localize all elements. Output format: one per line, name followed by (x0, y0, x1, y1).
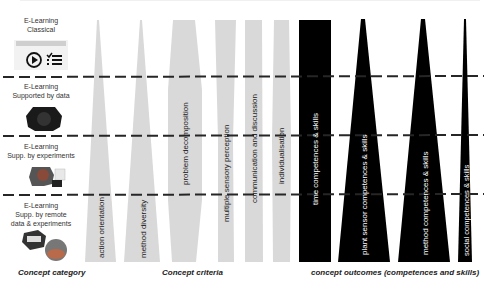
category-supp-by-remote: E-Learning Supp. by remote data & experi… (0, 201, 82, 228)
category-line: E-Learning (0, 142, 82, 151)
separator-line-2 (3, 135, 484, 136)
separator-line-3 (3, 194, 484, 195)
label-method-competences: method competences & skills (421, 151, 430, 255)
thumb-data (26, 107, 62, 131)
category-line: Classical (0, 25, 82, 34)
label-multiple-sensory-perception: multiple sensory perception (222, 125, 231, 222)
footer-concept-criteria: Concept criteria (162, 268, 223, 277)
label-communication-and-discussion: communication and discussion (250, 94, 259, 203)
thumb-experiments (29, 167, 65, 187)
category-line: E-Learning (0, 82, 82, 91)
label-individualisation: individualisation (277, 128, 286, 184)
category-line: Supported by data (0, 91, 82, 100)
category-line: E-Learning (0, 16, 82, 25)
label-problem-decomposition: problem decomposition (181, 102, 190, 185)
label-social-competences: social competences & skills (462, 164, 471, 256)
separator-line-1 (3, 76, 484, 77)
category-line: Supp. by remote (0, 210, 82, 219)
thumb-classical (14, 40, 68, 70)
category-line: data & experiments (0, 219, 82, 228)
category-supp-by-experiments: E-Learning Supp. by experiments (0, 142, 82, 160)
label-time-competences: time competences & skills (311, 113, 320, 205)
thumb-remote (22, 230, 67, 261)
footer-concept-outcomes: concept outcomes (competences and skills… (311, 268, 479, 277)
label-method-diversity: method diversity (139, 200, 148, 258)
category-classical: E-Learning Classical (0, 16, 82, 34)
label-plant-sensor-competences: plant sensor competences & skills (360, 135, 369, 256)
footer-concept-category: Concept category (18, 268, 86, 277)
category-line: Supp. by experiments (0, 151, 82, 160)
label-action-orientation: action orientation (97, 197, 106, 258)
category-line: E-Learning (0, 201, 82, 210)
category-supported-by-data: E-Learning Supported by data (0, 82, 82, 100)
